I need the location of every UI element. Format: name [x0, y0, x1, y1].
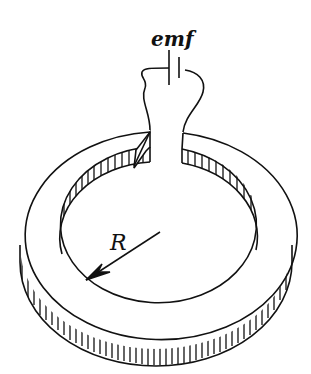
- outer-top-edge: [25, 132, 297, 340]
- inner-wall-edge-right: [182, 163, 257, 250]
- left-lead-wire: [142, 68, 169, 130]
- ring: [20, 132, 297, 366]
- right-lead-wire: [183, 70, 204, 132]
- emf-label: emf: [151, 27, 197, 51]
- split-ring-diagram: emf R: [0, 0, 311, 374]
- inner-wall-hatching-right: [188, 140, 251, 260]
- inner-wall-hatching-left: [64, 140, 143, 260]
- emf-leads: [142, 68, 204, 132]
- battery-icon: [169, 50, 179, 85]
- radius-label: R: [109, 230, 127, 255]
- inner-wall-edge-left: [60, 162, 150, 254]
